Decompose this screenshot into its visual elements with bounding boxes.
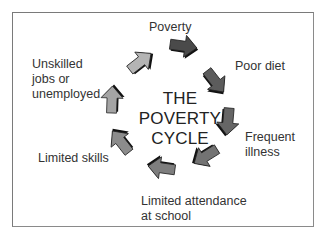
- arrow-icon: [103, 122, 139, 159]
- arrow-icon: [214, 107, 240, 137]
- cycle-arrows: [0, 0, 327, 243]
- arrow-icon: [123, 44, 160, 80]
- arrow-icon: [145, 153, 176, 180]
- arrow-icon: [168, 33, 199, 60]
- arrow-icon: [186, 139, 223, 174]
- arrow-icon: [197, 64, 233, 101]
- arrow-icon: [101, 84, 125, 113]
